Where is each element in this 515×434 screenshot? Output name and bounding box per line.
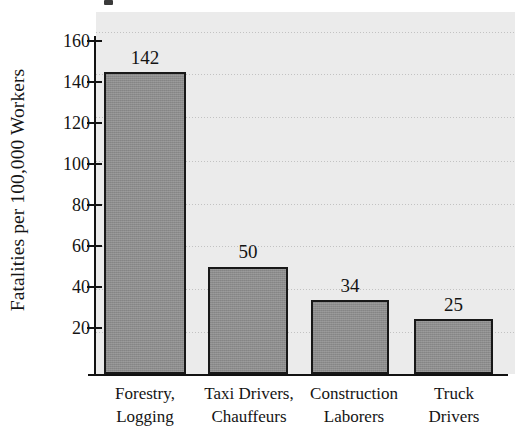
bar-value-construction-laborers: 34 xyxy=(311,276,389,295)
x-cat-label-truck-drivers-line2: Drivers xyxy=(411,405,497,428)
bar-value-taxi-drivers-chauffeurs: 50 xyxy=(208,242,288,261)
x-cat-label-forestry-logging-line2: Logging xyxy=(96,405,194,428)
x-cat-label-truck-drivers: Truck Drivers xyxy=(411,382,497,428)
bar-value-forestry-logging: 142 xyxy=(104,48,186,67)
x-cat-label-taxi-drivers-chauffeurs-line2: Chauffeurs xyxy=(197,405,301,428)
x-cat-label-forestry-logging: Forestry, Logging xyxy=(96,382,194,428)
x-cat-label-taxi-drivers-chauffeurs-line1: Taxi Drivers, xyxy=(204,384,293,403)
bar-value-labels: 142 50 34 25 xyxy=(0,0,515,434)
x-cat-label-forestry-logging-line1: Forestry, xyxy=(115,384,175,403)
x-cat-label-construction-laborers-line1: Construction xyxy=(310,384,398,403)
x-cat-label-taxi-drivers-chauffeurs: Taxi Drivers, Chauffeurs xyxy=(197,382,301,428)
bar-value-truck-drivers: 25 xyxy=(414,295,493,314)
bar-chart-figure: Fatalities per 100,000 Workers 160 140 1… xyxy=(0,0,515,434)
x-cat-label-construction-laborers: Construction Laborers xyxy=(301,382,407,428)
x-cat-label-truck-drivers-line1: Truck xyxy=(434,384,474,403)
x-axis-category-labels: Forestry, Logging Taxi Drivers, Chauffeu… xyxy=(0,382,515,434)
x-cat-label-construction-laborers-line2: Laborers xyxy=(301,405,407,428)
